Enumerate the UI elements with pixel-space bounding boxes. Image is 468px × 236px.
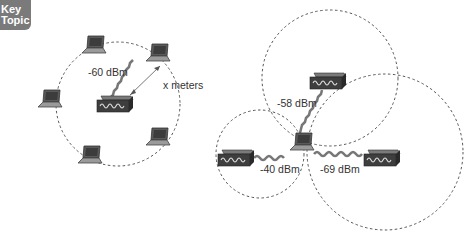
laptop-icon	[146, 44, 170, 61]
right-wave-link	[314, 152, 362, 156]
diagram-svg	[0, 0, 468, 236]
top-signal-label: -58 dBm	[277, 97, 317, 109]
roaming-laptop-icon	[290, 133, 314, 150]
left-wave-link	[254, 156, 284, 160]
laptop-icon	[38, 90, 62, 107]
diagram-canvas: Key Topic	[0, 0, 468, 236]
distance-label: x meters	[163, 79, 203, 91]
left-access-point-icon	[97, 96, 133, 112]
right-access-point-icon	[364, 150, 400, 166]
left-ap-signal-label: -40 dBm	[260, 163, 300, 175]
top-access-point-icon	[310, 73, 346, 89]
laptop-icon	[146, 128, 170, 145]
right-ap-signal-label: -69 dBm	[320, 163, 360, 175]
left-access-point-icon	[218, 150, 254, 166]
left-signal-label: -60 dBm	[88, 66, 128, 78]
distance-arrow	[130, 66, 160, 95]
laptop-icon	[82, 36, 106, 53]
